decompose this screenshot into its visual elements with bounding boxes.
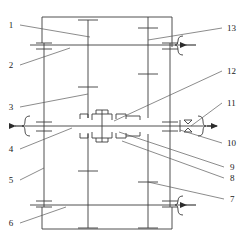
gearbox-housing [42,17,172,229]
gear-train-diagram: 1 2 3 4 5 6 13 12 11 10 9 8 7 [0,0,246,247]
callout-label-12: 12 [227,66,236,76]
leader-line-11 [191,103,222,126]
coupling-jaw-upper [184,120,192,124]
callout-labels: 1 2 3 4 5 6 13 12 11 10 9 8 7 [9,20,237,228]
gear-crossbars-upper [36,20,178,87]
vertical-shafts [44,20,170,228]
callout-label-4: 4 [9,144,14,154]
clutch-arm [80,133,88,138]
leader-line-13 [148,28,222,40]
leader-line-1 [20,25,90,37]
leader-line-2 [20,48,70,65]
callout-label-1: 1 [9,20,14,30]
shaft-lines [24,45,212,205]
callout-label-5: 5 [9,175,14,185]
gear-crossbars-lower [36,171,178,228]
callout-label-7: 7 [230,194,235,204]
top-right-brake-bracket-group [175,36,183,55]
leader-line-8 [122,141,224,178]
leader-line-3 [20,94,88,107]
bottom-right-brake-bracket-group [175,196,183,215]
brake-bracket [175,36,183,55]
leader-line-7 [148,182,224,199]
leader-line-5 [20,168,44,180]
clutch-arm [80,114,88,119]
callout-label-8: 8 [230,173,235,183]
flow-arrows [15,45,217,205]
callout-label-3: 3 [9,102,14,112]
callout-label-6: 6 [9,218,14,228]
callout-label-9: 9 [230,162,235,172]
leader-line-12 [114,71,222,121]
brake-bracket [175,196,183,215]
schematic-canvas: 1 2 3 4 5 6 13 12 11 10 9 8 7 [0,0,246,247]
callout-label-10: 10 [227,138,237,148]
leader-line-10 [180,130,222,143]
callout-leader-lines [20,25,224,223]
callout-label-11: 11 [227,98,236,108]
callout-label-13: 13 [227,23,237,33]
callout-label-2: 2 [9,60,14,70]
leader-line-6 [20,207,66,223]
leader-line-9 [119,132,224,167]
